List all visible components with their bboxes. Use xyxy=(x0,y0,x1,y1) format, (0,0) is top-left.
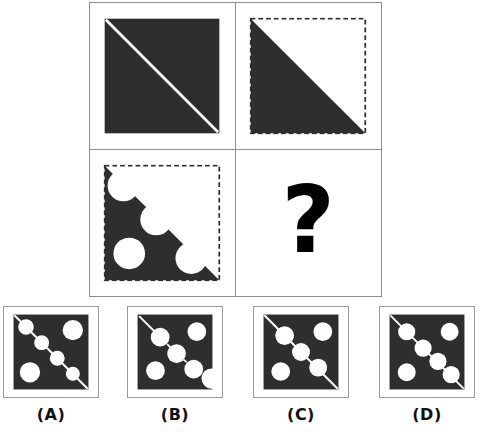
corner-circle-bottom-left xyxy=(146,361,165,380)
corner-circle-top-right xyxy=(63,320,83,340)
diagonal-circle-3 xyxy=(50,351,65,366)
diagonal-circle-3 xyxy=(309,359,327,377)
diagonal-circle-4 xyxy=(66,367,80,381)
option-b-svg xyxy=(136,313,214,391)
option-c-label: (C) xyxy=(246,405,356,424)
option-c[interactable]: (C) xyxy=(246,303,356,424)
option-b[interactable]: (B) xyxy=(120,303,230,424)
figure-solid-square-with-diagonal xyxy=(104,17,221,134)
option-a-label: (A) xyxy=(0,405,106,424)
option-b-box[interactable] xyxy=(127,306,223,398)
matrix-grid: ? xyxy=(90,3,381,296)
option-a-svg xyxy=(12,313,90,391)
option-b-label: (B) xyxy=(120,405,230,424)
corner-circle-bottom-left xyxy=(20,362,40,382)
option-d-box[interactable] xyxy=(379,306,475,398)
diagonal-circle-3 xyxy=(184,360,203,379)
corner-circle-top-right xyxy=(441,323,459,341)
corner-circle-bottom-left xyxy=(271,362,290,381)
option-c-svg xyxy=(262,313,340,391)
answer-options-row: (A) xyxy=(0,303,480,437)
corner-circle-bottom-left xyxy=(398,363,416,381)
question-mark-placeholder: ? xyxy=(282,175,335,267)
option-d[interactable]: (D) xyxy=(372,303,480,424)
option-c-figure xyxy=(262,313,340,391)
diagonal-circle-2 xyxy=(34,335,49,350)
option-d-figure xyxy=(388,313,466,391)
cell-1-svg xyxy=(104,17,221,134)
diagonal-circle-3 xyxy=(429,353,446,370)
option-a[interactable]: (A) xyxy=(0,303,106,424)
matrix-panel: ? xyxy=(89,2,382,297)
option-a-figure xyxy=(12,313,90,391)
option-d-svg xyxy=(388,313,466,391)
cell-3-svg xyxy=(104,164,221,281)
diagonal-circle-1 xyxy=(18,319,34,335)
matrix-cell-top-right xyxy=(236,3,382,150)
option-a-box[interactable] xyxy=(3,306,99,398)
option-c-box[interactable] xyxy=(253,306,349,398)
cell-2-svg xyxy=(250,17,367,134)
figure-triangle-with-bites xyxy=(104,164,221,281)
matrix-cell-bottom-right-missing[interactable]: ? xyxy=(236,150,382,297)
diagonal-circle-1 xyxy=(275,326,294,345)
corner-circle-top-right xyxy=(187,322,206,341)
option-d-label: (D) xyxy=(372,405,480,424)
option-b-figure xyxy=(136,313,214,391)
matrix-cell-bottom-left xyxy=(90,150,236,297)
diagonal-circle-2 xyxy=(415,340,432,357)
diagonal-circle-1 xyxy=(398,323,415,340)
figure-lower-left-triangle xyxy=(250,17,367,134)
matrix-cell-top-left xyxy=(90,3,236,150)
diagonal-circle-4 xyxy=(443,366,460,383)
diagonal-circle-2 xyxy=(292,343,310,361)
corner-circle-top-right xyxy=(313,322,332,341)
diagonal-circle-1 xyxy=(151,328,170,347)
